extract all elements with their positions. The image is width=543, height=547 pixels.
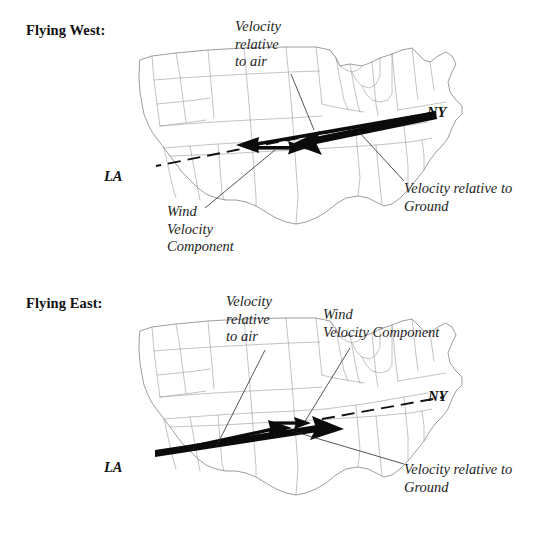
label-wind-velocity-component: Wind Velocity Component — [323, 306, 439, 341]
label-velocity-relative-to-ground: Velocity relative to Ground — [404, 180, 512, 215]
label-velocity-relative-to-air: Velocity relative to air — [235, 18, 281, 71]
panel-flying-west: Flying West: — [0, 0, 543, 276]
city-label-la: LA — [104, 459, 123, 476]
city-label-ny: NY — [427, 104, 446, 121]
label-velocity-relative-to-ground: Velocity relative to Ground — [404, 461, 512, 496]
label-wind-velocity-component: Wind Velocity Component — [167, 203, 234, 256]
panel-flying-east: Flying East: — [0, 271, 543, 547]
city-label-la: LA — [104, 168, 123, 185]
city-label-ny: NY — [428, 388, 447, 405]
label-velocity-relative-to-air: Velocity relative to air — [226, 293, 272, 346]
